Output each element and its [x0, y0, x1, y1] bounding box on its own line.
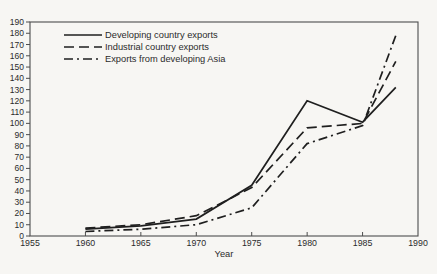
y-tick-label: 190 [10, 17, 24, 27]
x-axis-title: Year [215, 249, 234, 259]
y-tick-label: 20 [15, 208, 25, 218]
chart-figure: 0102030405060708090100110120130140150160… [0, 0, 437, 274]
legend-label: Exports from developing Asia [105, 54, 226, 64]
y-tick-label: 60 [15, 163, 25, 173]
x-tick-label: 1960 [76, 238, 96, 248]
y-tick-label: 100 [10, 118, 24, 128]
legend-label: Developing country exports [105, 30, 218, 40]
y-tick-label: 110 [10, 107, 24, 117]
y-tick-label: 90 [15, 130, 25, 140]
y-tick-label: 180 [10, 28, 24, 38]
y-tick-label: 150 [10, 62, 24, 72]
chart-canvas: 0102030405060708090100110120130140150160… [0, 0, 437, 274]
y-tick-label: 70 [15, 152, 25, 162]
legend-label: Industrial country exports [105, 42, 209, 52]
y-tick-label: 120 [10, 96, 24, 106]
x-tick-label: 1985 [353, 238, 373, 248]
y-tick-label: 30 [15, 197, 25, 207]
series-line-industrial-country-exports [85, 61, 395, 228]
x-tick-label: 1965 [131, 238, 151, 248]
series-line-developing-country-exports [85, 87, 395, 229]
series-line-exports-from-developing-asia [85, 36, 395, 232]
x-tick-label: 1980 [297, 238, 317, 248]
x-tick-label: 1975 [242, 238, 262, 248]
y-tick-label: 170 [10, 40, 24, 50]
x-tick-label: 1990 [408, 238, 428, 248]
y-tick-label: 10 [15, 220, 25, 230]
y-tick-label: 140 [10, 73, 24, 83]
y-tick-label: 160 [10, 51, 24, 61]
y-tick-label: 80 [15, 141, 25, 151]
x-tick-label: 1955 [20, 238, 40, 248]
x-tick-label: 1970 [186, 238, 206, 248]
y-tick-label: 40 [15, 186, 25, 196]
y-tick-label: 50 [15, 175, 25, 185]
y-tick-label: 130 [10, 85, 24, 95]
